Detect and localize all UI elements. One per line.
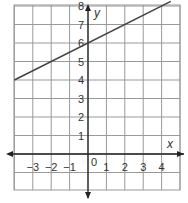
x-tick-label: 3 xyxy=(140,161,146,173)
coordinate-graph: −3−2−10123412345678xy xyxy=(0,0,188,203)
y-tick-label: 5 xyxy=(78,56,84,68)
x-tick-label: 4 xyxy=(159,161,165,173)
x-tick-label: 0 xyxy=(91,156,97,168)
x-tick-label: −3 xyxy=(27,161,40,173)
x-tick-label: −1 xyxy=(63,161,76,173)
y-tick-label: 7 xyxy=(78,19,84,31)
data-line xyxy=(14,1,170,80)
y-axis-label: y xyxy=(93,6,101,20)
y-tick-label: 2 xyxy=(78,111,84,123)
x-axis-arrow-left-icon xyxy=(6,151,13,157)
y-tick-label: 3 xyxy=(78,93,84,105)
y-tick-label: 8 xyxy=(78,0,84,12)
x-tick-label: 1 xyxy=(103,161,109,173)
x-axis-label: x xyxy=(166,137,174,151)
x-tick-label: −2 xyxy=(45,161,58,173)
x-tick-label: 2 xyxy=(122,161,128,173)
y-tick-label: 4 xyxy=(78,74,84,86)
y-tick-label: 1 xyxy=(78,130,84,142)
y-axis-arrow-down-icon xyxy=(85,192,91,199)
